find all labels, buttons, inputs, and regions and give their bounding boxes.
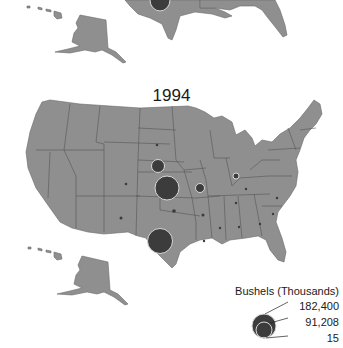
symbol-texas bbox=[148, 229, 173, 254]
symbol-south-dakota bbox=[156, 144, 159, 147]
symbol-nebraska bbox=[152, 160, 165, 173]
symbol-indiana bbox=[233, 173, 239, 179]
legend-title: Bushels (Thousands) bbox=[235, 285, 339, 297]
legend-value-large: 182,400 bbox=[299, 300, 339, 312]
symbol-kentucky bbox=[245, 188, 247, 190]
symbol-missouri bbox=[196, 184, 205, 193]
symbol-new-mexico bbox=[120, 217, 123, 220]
symbol-colorado bbox=[125, 183, 128, 186]
prev-map-southeast bbox=[200, 0, 287, 37]
prev-map-hawaii bbox=[27, 6, 62, 19]
map-title: 1994 bbox=[0, 86, 343, 106]
alaska bbox=[57, 256, 128, 305]
symbol-georgia bbox=[259, 223, 261, 225]
legend-circle-small bbox=[263, 337, 265, 339]
legend-symbols bbox=[252, 302, 288, 339]
symbol-oklahoma bbox=[172, 209, 176, 213]
symbol-south-carolina bbox=[272, 213, 274, 215]
legend-leader-1 bbox=[265, 302, 288, 314]
legend-value-medium: 91,208 bbox=[305, 316, 339, 328]
symbol-arkansas bbox=[202, 214, 205, 217]
hawaii bbox=[28, 247, 62, 260]
legend-value-small: 15 bbox=[327, 332, 339, 344]
symbol-tennessee bbox=[235, 202, 237, 204]
prev-map-alaska bbox=[55, 15, 126, 63]
symbol-louisiana bbox=[203, 240, 205, 242]
symbol-alabama bbox=[238, 226, 240, 228]
legend-circle-medium bbox=[256, 322, 272, 338]
symbol-mississippi bbox=[219, 227, 221, 229]
prev-map-fragment bbox=[27, 0, 287, 63]
symbol-north-carolina bbox=[276, 197, 278, 199]
us-map-1994 bbox=[26, 100, 322, 305]
symbol-kansas bbox=[155, 176, 179, 200]
